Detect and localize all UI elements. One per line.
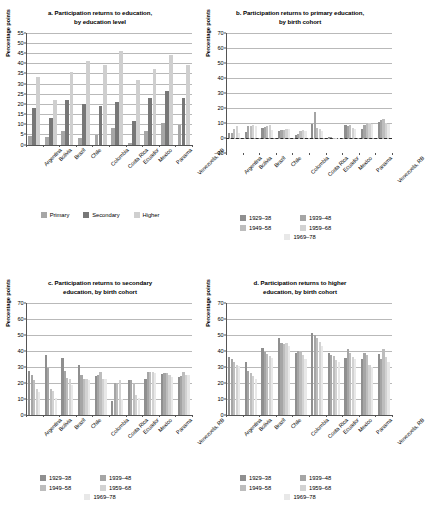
x-tick-mark (226, 153, 227, 156)
panel-c-title-line2: education, by birth cohort (63, 288, 137, 295)
x-tick-mark (342, 415, 343, 418)
y-tick-label: 50 (17, 332, 26, 338)
panel-b: b. Participation returns to primary educ… (200, 0, 400, 263)
y-tick-label: 40 (217, 75, 226, 81)
bar (255, 126, 257, 138)
bar (387, 124, 389, 138)
bar (187, 375, 189, 414)
legend-label: 1959–68 (309, 225, 331, 231)
x-tick-mark (359, 415, 360, 418)
bar (186, 65, 190, 144)
legend-swatch-icon (100, 475, 106, 481)
legend-item: 1949–58 (40, 485, 100, 491)
y-tick-label: 60 (17, 316, 26, 322)
y-tick-label: 20 (17, 101, 26, 107)
gridline (226, 351, 392, 352)
legend-item: 1969–78 (36, 494, 164, 500)
y-tick-label: 70 (217, 30, 226, 36)
x-tick-mark (175, 145, 176, 148)
legend-label: 1929–38 (249, 215, 271, 221)
panel-b-title-line2: by birth cohort (279, 18, 321, 25)
gridline (26, 43, 192, 44)
panel-c-title: c. Participation returns to secondary ed… (0, 263, 200, 297)
bar (38, 392, 40, 414)
bar (255, 379, 257, 415)
legend-label: Secondary (92, 212, 119, 218)
bar (354, 129, 356, 137)
legend-swatch-icon (300, 485, 306, 491)
bar (271, 130, 273, 138)
x-tick-mark (142, 415, 143, 418)
panel-b-title: b. Participation returns to primary educ… (200, 0, 400, 27)
bar (53, 100, 57, 145)
bar (88, 380, 90, 415)
legend-swatch-icon (41, 212, 47, 218)
bar (321, 346, 323, 415)
y-tick-label: 45 (17, 50, 26, 56)
legend-swatch-icon (83, 212, 89, 218)
panel-d-title-line1: d. Participation returns to higher (254, 279, 347, 286)
legend-label: 1929–38 (249, 475, 271, 481)
legend-label: 1959–68 (109, 485, 131, 491)
legend-label: 1939–48 (309, 475, 331, 481)
legend-swatch-icon (284, 494, 290, 500)
x-tick-label: Panama (375, 155, 393, 173)
legend-swatch-icon (40, 475, 46, 481)
legend-label: 1939–48 (109, 475, 131, 481)
panel-d-legend: 1929–381939–481949–581959–681969–78 (236, 475, 364, 504)
y-axis-line (226, 303, 227, 415)
x-tick-mark (109, 145, 110, 148)
y-tick-label: 35 (17, 70, 26, 76)
gridline (226, 78, 392, 79)
y-tick-label: 30 (17, 81, 26, 87)
x-tick-label: Chile (90, 417, 103, 430)
bar (371, 124, 373, 138)
x-tick-mark (92, 145, 93, 148)
x-tick-label: Brazil (73, 417, 87, 431)
legend-swatch-icon (284, 234, 290, 240)
panel-b-title-line1: b. Participation returns to primary educ… (236, 9, 364, 16)
y-tick-label: 50 (17, 40, 26, 46)
legend-swatch-icon (300, 225, 306, 231)
bar (371, 367, 373, 415)
panel-a-title-line1: a. Participation returns to education, (48, 9, 152, 16)
y-tick-label: 50 (217, 332, 226, 338)
x-tick-mark (109, 415, 110, 418)
legend-item: Primary (41, 212, 70, 218)
x-tick-mark (159, 415, 160, 418)
bar (238, 133, 240, 138)
legend-swatch-icon (300, 215, 306, 221)
panel-c-plot-area: 010203040506070 (26, 303, 192, 415)
x-tick-mark (375, 415, 376, 418)
x-tick-mark (243, 415, 244, 418)
x-tick-label: Panama (175, 147, 193, 165)
legend-label: 1939–48 (309, 215, 331, 221)
panel-c-title-line1: c. Participation returns to secondary (48, 279, 152, 286)
y-tick-label: 30 (217, 90, 226, 96)
x-tick-mark (276, 153, 277, 156)
y-tick-label: –10 (214, 150, 226, 156)
bar (121, 399, 123, 415)
x-tick-label: Mexico (357, 155, 373, 171)
y-axis-line (26, 33, 27, 145)
bar (387, 362, 389, 415)
gridline (26, 53, 192, 54)
legend-label: 1969–78 (293, 494, 315, 500)
panel-a-title-line2: by education level (74, 18, 126, 25)
x-tick-mark (76, 145, 77, 148)
y-tick-label: 70 (17, 300, 26, 306)
legend-swatch-icon (240, 225, 246, 231)
legend-item: 1939–48 (100, 475, 160, 481)
x-tick-mark (26, 415, 27, 418)
y-tick-label: 40 (17, 348, 26, 354)
legend-swatch-icon (240, 215, 246, 221)
legend-label: 1949–58 (49, 485, 71, 491)
legend-item: 1929–38 (40, 475, 100, 481)
y-tick-label: 60 (217, 316, 226, 322)
gridline (26, 63, 192, 64)
bar (304, 131, 306, 137)
y-tick-label: 10 (217, 120, 226, 126)
legend-label: 1959–68 (309, 485, 331, 491)
panel-b-plot-area: –10010203040506070 (226, 33, 392, 153)
